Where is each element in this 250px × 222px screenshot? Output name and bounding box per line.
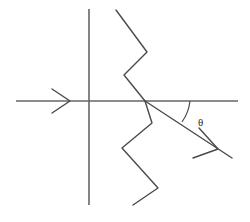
diagram-canvas: θ — [0, 0, 250, 222]
upper-wave-zigzag — [116, 10, 147, 101]
angle-arc — [182, 101, 190, 122]
theta-label: θ — [198, 116, 203, 128]
optics-refraction-diagram: θ — [0, 0, 250, 222]
lower-wave-zigzag — [122, 101, 158, 205]
arrowhead-diagonal-icon — [193, 128, 218, 158]
